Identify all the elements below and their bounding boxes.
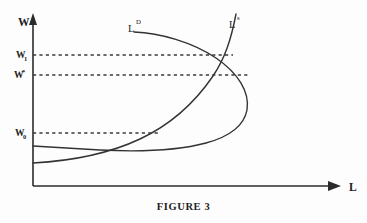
wage-tick-w0: W 0 <box>15 128 26 140</box>
y-axis-arrowhead <box>29 13 37 25</box>
wage-tick-w0-subscript: 0 <box>23 133 26 140</box>
wage-tick-wstar: W * <box>14 68 25 80</box>
x-axis-label: L <box>349 181 357 193</box>
x-axis-arrowhead <box>328 181 341 191</box>
figure-caption: FIGURE 3 <box>0 201 367 212</box>
labor-supply-label: L s <box>229 14 240 30</box>
wage-tick-w1: W 1 <box>16 50 27 62</box>
labor-supply-curve <box>33 14 236 163</box>
wage-tick-wstar-superscript: * <box>22 68 25 75</box>
labor-supply-label-superscript: s <box>237 14 240 21</box>
y-axis-label: W <box>18 16 30 28</box>
labor-demand-label-base: L <box>128 23 134 34</box>
figure-container: W L W 1 W * W 0 L D L s FIGURE 3 <box>0 0 367 223</box>
axes-group <box>29 13 341 191</box>
wage-guide-lines <box>33 55 248 133</box>
labor-supply-label-base: L <box>229 19 235 30</box>
labor-demand-label-superscript: D <box>136 18 141 25</box>
labor-market-diagram: W L W 1 W * W 0 L D L s <box>0 0 367 223</box>
wage-tick-w1-subscript: 1 <box>24 55 27 62</box>
